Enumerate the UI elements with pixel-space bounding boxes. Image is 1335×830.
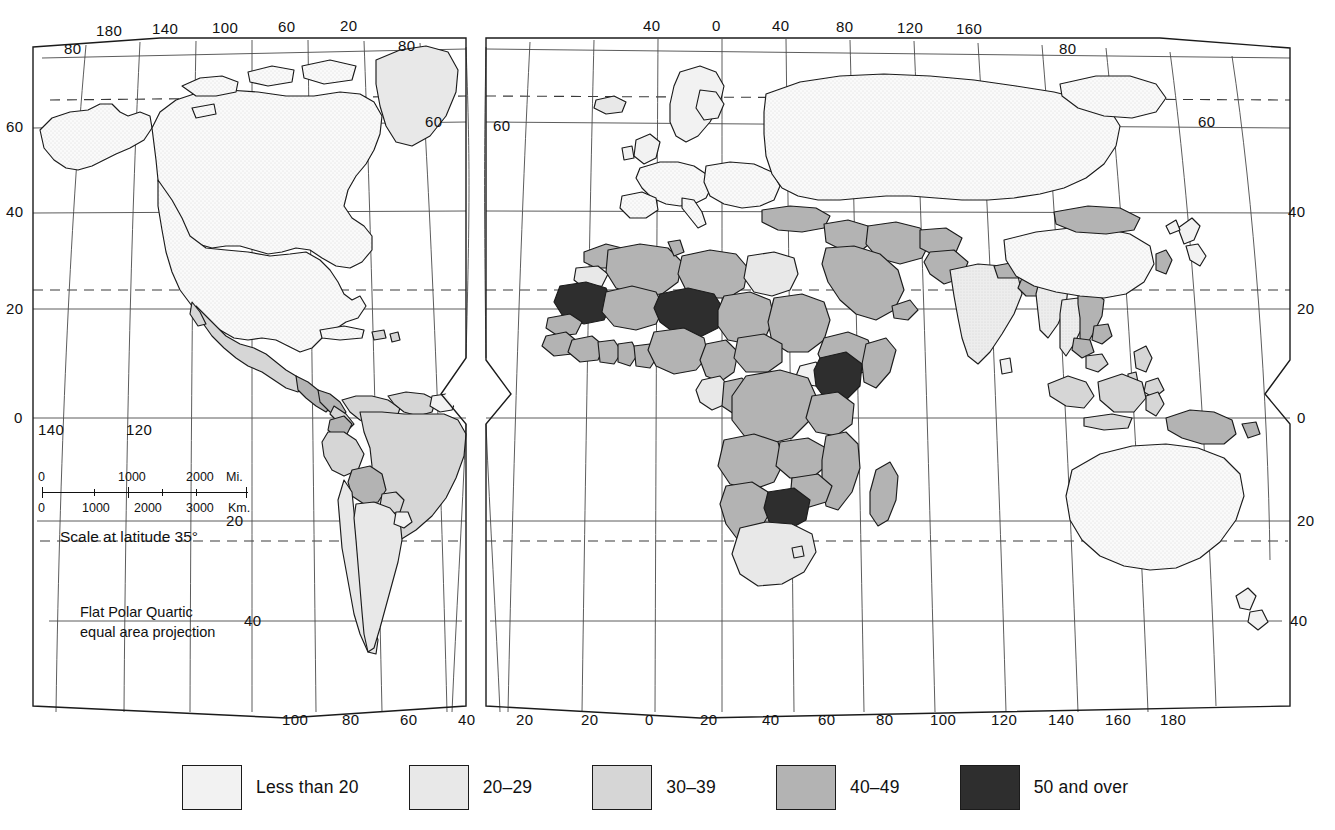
legend-class-20-29[interactable]: 20–29 [409,765,533,810]
legend-class-less-than-20[interactable]: Less than 20 [182,765,359,810]
top-longitude-label-w-4: 20 [340,17,358,34]
right-latitude-60: 60 [1198,113,1216,130]
bottom-longitude-label-e-0: 20 [581,711,599,728]
bottom-longitude-label-e-8: 140 [1048,711,1074,728]
scale-km-3000: 3000 [186,501,214,515]
projection-note-line1: Flat Polar Quartic [80,602,215,622]
scale-mi-unit: Mi. [226,470,243,484]
scale-latitude-note: Scale at latitude 35° [60,528,198,546]
top-longitude-label-w-0: 180 [96,22,122,39]
scale-mi-0: 0 [38,470,45,484]
left-latitude-20: 20 [6,300,24,317]
scale-tick-0 [42,487,43,498]
top-right-corner-latitude-e: 80 [1059,40,1077,57]
legend-label-20-29: 20–29 [483,777,533,798]
scale-km-1000: 1000 [82,501,110,515]
top-left-corner-latitude: 80 [64,40,82,57]
left-latitude-60: 60 [6,118,24,135]
legend-label-30-39: 30–39 [666,777,716,798]
bottom-longitude-label-e-9: 160 [1105,711,1131,728]
top-longitude-label-e-0: 40 [643,17,661,34]
bottom-longitude-label-e-10: 180 [1160,711,1186,728]
top-right-corner-latitude-w: 80 [398,37,416,54]
map-legend: Less than 20 20–29 30–39 40–49 50 and ov… [0,758,1335,816]
right-latitude-0: 0 [1297,409,1306,426]
scale-tick-1000 [128,487,129,498]
bottom-longitude-label-w-0: 100 [282,711,308,728]
world-map-graphic[interactable] [0,0,1335,760]
right-latitude-20: 20 [1297,300,1315,317]
left-latitude-40: 40 [6,203,24,220]
top-longitude-label-e-2: 40 [772,17,790,34]
scale-miles-row: 0 1000 2000 Mi. [38,470,288,486]
scale-km-unit: Km. [228,501,250,515]
top-longitude-label-w-1: 140 [152,20,178,37]
legend-class-30-39[interactable]: 30–39 [592,765,716,810]
top-longitude-label-w-3: 60 [278,18,296,35]
scale-tick-2000 [246,487,247,498]
projection-note-line2: equal area projection [80,622,215,642]
top-longitude-label-e-4: 120 [897,19,923,36]
legend-swatch-less-than-20 [182,765,242,810]
scale-km-0: 0 [38,501,45,515]
projection-note: Flat Polar Quartic equal area projection [80,602,215,642]
bottom-longitude-label-e-5: 80 [876,711,894,728]
bottom-longitude-label-w-2: 60 [400,711,418,728]
left-bottom-longitude-140: 140 [38,421,64,438]
top-longitude-label-e-3: 80 [836,18,854,35]
inner-left-latitude-60: 60 [425,113,443,130]
top-longitude-label-w-2: 100 [212,19,238,36]
legend-class-50-and-over[interactable]: 50 and over [960,765,1129,810]
bottom-longitude-label-e-6: 100 [930,711,956,728]
bottom-longitude-label-w-1: 80 [342,711,360,728]
left-latitude-0: 0 [14,409,23,426]
legend-label-50-and-over: 50 and over [1034,777,1129,798]
bottom-longitude-label-w-3: 40 [458,711,476,728]
scale-tick-2000-km [196,489,197,496]
legend-label-less-than-20: Less than 20 [256,777,359,798]
right-latitude-40-south: 40 [1290,612,1308,629]
scale-ruler [38,487,288,499]
scale-km-2000: 2000 [134,501,162,515]
bottom-longitude-label-e-4: 60 [818,711,836,728]
scale-mi-2000: 2000 [186,470,214,484]
bottom-longitude-label-e-7: 120 [991,711,1017,728]
scale-axis-line [42,492,248,493]
legend-swatch-40-49 [776,765,836,810]
inner-right-latitude-60: 60 [493,117,511,134]
top-longitude-label-e-5: 160 [956,20,982,37]
legend-label-40-49: 40–49 [850,777,900,798]
scale-bar: 0 1000 2000 Mi. 0 1000 2000 3000 Km. [38,470,288,517]
scale-km-row: 0 1000 2000 3000 Km. [38,501,288,517]
eastern-hemisphere-lobe [485,38,1291,718]
right-latitude-20-south: 20 [1297,512,1315,529]
top-longitude-label-e-1: 0 [712,17,721,34]
legend-swatch-30-39 [592,765,652,810]
scale-tick-500 [94,489,95,496]
right-latitude-40: 40 [1288,203,1306,220]
bottom-longitude-label-w-4: 20 [516,711,534,728]
scale-mi-1000: 1000 [118,470,146,484]
left-lower-longitude-120: 120 [126,421,152,438]
legend-swatch-50-and-over [960,765,1020,810]
map-page: 180 140 100 60 20 80 80 40 0 40 80 120 1… [0,0,1335,830]
scale-tick-1500 [162,489,163,496]
legend-swatch-20-29 [409,765,469,810]
bottom-longitude-label-e-2: 20 [700,711,718,728]
left-lower-latitude-40: 40 [244,612,262,629]
bottom-longitude-label-e-3: 40 [762,711,780,728]
legend-class-40-49[interactable]: 40–49 [776,765,900,810]
bottom-longitude-label-e-1: 0 [645,711,654,728]
